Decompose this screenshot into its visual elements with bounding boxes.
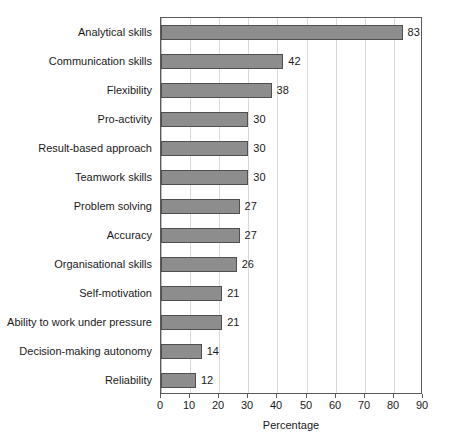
bar[interactable]	[161, 228, 240, 243]
plot-area	[160, 17, 422, 394]
bar[interactable]	[161, 83, 272, 98]
x-tick-mark	[393, 394, 394, 398]
bar-value-label: 42	[288, 56, 300, 67]
x-tick-mark	[306, 394, 307, 398]
x-tick-label: 80	[387, 400, 399, 411]
x-tick-label: 70	[358, 400, 370, 411]
x-tick-label: 20	[212, 400, 224, 411]
bar-row	[161, 337, 421, 366]
category-label: Pro-activity	[0, 114, 157, 125]
bar-value-label: 12	[201, 375, 213, 386]
x-tick-mark	[364, 394, 365, 398]
bar-row	[161, 76, 421, 105]
bar[interactable]	[161, 373, 196, 388]
bar-value-label: 21	[227, 288, 239, 299]
x-tick-label: 40	[270, 400, 282, 411]
bar[interactable]	[161, 257, 237, 272]
bar-row	[161, 308, 421, 337]
category-label: Flexibility	[0, 85, 157, 96]
category-label: Problem solving	[0, 201, 157, 212]
x-tick-mark	[218, 394, 219, 398]
x-tick-mark	[247, 394, 248, 398]
bar-value-label: 30	[253, 114, 265, 125]
bar-value-label: 21	[227, 317, 239, 328]
category-label: Self-motivation	[0, 288, 157, 299]
bar[interactable]	[161, 25, 403, 40]
bar-value-label: 27	[245, 230, 257, 241]
x-tick-mark	[160, 394, 161, 398]
category-label: Teamwork skills	[0, 172, 157, 183]
bar[interactable]	[161, 344, 202, 359]
bar[interactable]	[161, 112, 248, 127]
bar[interactable]	[161, 286, 222, 301]
category-label: Decision-making autonomy	[0, 346, 157, 357]
bar[interactable]	[161, 199, 240, 214]
bar[interactable]	[161, 315, 222, 330]
bar-row	[161, 279, 421, 308]
x-tick-label: 30	[241, 400, 253, 411]
bar-row	[161, 105, 421, 134]
x-tick-label: 50	[300, 400, 312, 411]
category-label: Ability to work under pressure	[0, 317, 157, 328]
bar-value-label: 30	[253, 143, 265, 154]
x-tick-mark	[335, 394, 336, 398]
bar-row	[161, 18, 421, 47]
x-tick-mark	[189, 394, 190, 398]
bar-value-label: 38	[277, 85, 289, 96]
x-tick-label: 10	[183, 400, 195, 411]
category-label: Analytical skills	[0, 27, 157, 38]
bar-value-label: 83	[408, 27, 420, 38]
x-tick-label: 90	[416, 400, 428, 411]
x-tick-mark	[422, 394, 423, 398]
x-tick-label: 0	[157, 400, 163, 411]
x-tick-label: 60	[329, 400, 341, 411]
bar-value-label: 14	[207, 346, 219, 357]
x-axis-ticks: 0102030405060708090	[160, 394, 422, 414]
x-axis-title: Percentage	[160, 419, 422, 431]
bar-value-label: 27	[245, 201, 257, 212]
category-label: Result-based approach	[0, 143, 157, 154]
bar-value-label: 26	[242, 259, 254, 270]
category-label: Communication skills	[0, 56, 157, 67]
category-label: Organisational skills	[0, 259, 157, 270]
category-label: Accuracy	[0, 230, 157, 241]
bar-chart: 83423830303027272621211412 Analytical sk…	[0, 0, 449, 448]
bar-row	[161, 163, 421, 192]
x-tick-mark	[276, 394, 277, 398]
bar[interactable]	[161, 141, 248, 156]
bar[interactable]	[161, 170, 248, 185]
bar-row	[161, 221, 421, 250]
bar-row	[161, 134, 421, 163]
bar-row	[161, 192, 421, 221]
bar[interactable]	[161, 54, 283, 69]
category-label-layer: Analytical skillsCommunication skillsFle…	[0, 0, 157, 448]
bar-row	[161, 250, 421, 279]
bar-value-label: 30	[253, 172, 265, 183]
category-label: Reliability	[0, 375, 157, 386]
